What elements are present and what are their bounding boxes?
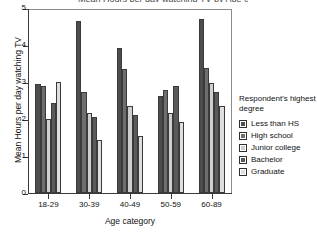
legend-item[interactable]: Bachelor [239,154,317,166]
legend-swatch-icon [239,156,247,164]
legend: Respondent's highest degree Less than HS… [239,94,317,178]
bar [138,136,143,193]
legend-item[interactable]: Less than HS [239,118,317,130]
legend-item-label: Bachelor [251,155,283,165]
legend-item-label: Less than HS [251,119,299,129]
x-tick-label: 50-59 [161,200,181,209]
x-tick-label: 40-49 [120,200,140,209]
legend-swatch-icon [239,144,247,152]
y-tick-label: 5 [22,3,26,12]
legend-item[interactable]: Graduate [239,166,317,178]
plot-border-right [231,9,232,194]
legend-item-label: Junior college [251,143,300,153]
legend-items: Less than HSHigh schoolJunior collegeBac… [239,118,317,178]
plot-area: 012345 18-2930-3940-4950-5960-89 [28,9,232,194]
chart-figure: Mean Hours per day watching TV by Age ca… [0,0,317,237]
x-tick-label: 60-89 [201,200,221,209]
legend-swatch-icon [239,168,247,176]
legend-item-label: Graduate [251,167,284,177]
chart-title: Mean Hours per day watching TV by Age ca… [78,0,248,2]
x-axis-label: Age category [28,216,232,226]
x-tick-mark [212,194,213,199]
x-tick-mark [171,194,172,199]
legend-item[interactable]: High school [239,130,317,142]
x-tick-mark [89,194,90,199]
legend-swatch-icon [239,120,247,128]
bar [97,140,102,193]
legend-title: Respondent's highest degree [239,94,317,114]
legend-swatch-icon [239,132,247,140]
y-tick-label: 2 [22,114,26,123]
x-tick-label: 18-29 [38,200,58,209]
y-tick-label: 3 [22,77,26,86]
bar [179,122,184,193]
y-tick-label: 4 [22,40,26,49]
legend-item[interactable]: Junior college [239,142,317,154]
bar [56,82,61,193]
bar [219,106,224,193]
x-tick-mark [48,194,49,199]
plot-border-top [28,9,232,10]
y-tick-label: 1 [22,151,26,160]
x-tick-label: 30-39 [79,200,99,209]
y-axis-line [28,9,29,194]
legend-item-label: High school [251,131,293,141]
x-tick-mark [130,194,131,199]
y-tick-label: 0 [22,188,26,197]
